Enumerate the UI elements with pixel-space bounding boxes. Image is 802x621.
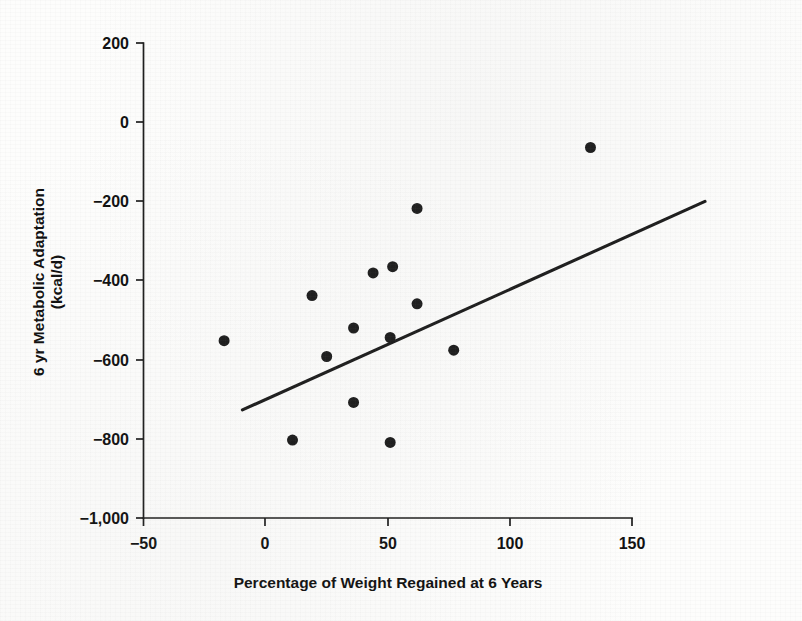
data-point: [321, 351, 332, 362]
data-point: [307, 290, 318, 301]
y-axis-ticks: [136, 43, 144, 518]
figure-root: 200 0 −200 −400 −600 −800 −1,000 −50 0 5…: [0, 0, 802, 621]
data-point: [348, 397, 359, 408]
data-point: [219, 335, 230, 346]
y-tick-label-0: 200: [102, 35, 129, 52]
x-tick-label-4: 150: [619, 535, 646, 552]
data-point-group: [219, 142, 596, 448]
data-point: [412, 203, 423, 214]
trend-line: [242, 201, 705, 409]
x-tick-label-1: 0: [261, 535, 270, 552]
y-axis-title-line1: 6 yr Metabolic Adaptation: [30, 188, 47, 376]
x-tick-label-3: 100: [497, 535, 524, 552]
data-point: [368, 267, 379, 278]
y-tick-label-5: −800: [93, 431, 129, 448]
data-point: [287, 435, 298, 446]
y-tick-label-2: −200: [93, 193, 129, 210]
data-point: [585, 142, 596, 153]
y-tick-label-6: −1,000: [80, 510, 129, 527]
y-tick-label-3: −400: [93, 272, 129, 289]
x-axis-title: Percentage of Weight Regained at 6 Years: [234, 574, 543, 591]
y-axis-tick-labels: 200 0 −200 −400 −600 −800 −1,000: [80, 35, 129, 527]
scatter-chart: 200 0 −200 −400 −600 −800 −1,000 −50 0 5…: [0, 0, 802, 621]
x-axis-tick-labels: −50 0 50 100 150: [130, 535, 646, 552]
data-point: [385, 437, 396, 448]
x-tick-label-0: −50: [130, 535, 157, 552]
data-point: [385, 332, 396, 343]
x-tick-label-2: 50: [379, 535, 397, 552]
x-axis-ticks: [144, 518, 633, 526]
y-tick-label-1: 0: [120, 114, 129, 131]
data-point: [387, 261, 398, 272]
data-point: [412, 298, 423, 309]
y-axis-title-line2: (kcal/d): [48, 255, 65, 309]
data-point: [448, 345, 459, 356]
y-tick-label-4: −600: [93, 352, 129, 369]
data-point: [348, 323, 359, 334]
